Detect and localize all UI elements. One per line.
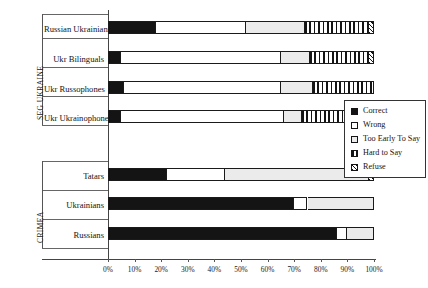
bar-segment: [308, 197, 375, 210]
bar-segment: [108, 168, 167, 181]
bar-row: [108, 51, 374, 64]
bar-segment: [369, 51, 374, 64]
bar-segment: [281, 51, 310, 64]
bar-segment: [369, 21, 374, 34]
bar-segment: [246, 21, 305, 34]
x-tick: [294, 259, 295, 262]
legend-item: Too Early To Say: [345, 132, 425, 146]
category-label: Ukr Bilinguals: [44, 55, 104, 64]
category-label: Ukrainians: [44, 201, 104, 210]
group-separator: [42, 248, 108, 249]
legend-swatch-icon: [351, 122, 358, 129]
x-tick: [135, 259, 136, 262]
legend-label: Wrong: [363, 121, 385, 129]
bar-segment: [305, 21, 369, 34]
bar-segment: [156, 21, 246, 34]
bar-segment: [337, 227, 348, 240]
legend-swatch-icon: [351, 108, 358, 115]
x-tick: [161, 259, 162, 262]
bar-segment: [313, 81, 374, 94]
stacked-bar-chart: SEG UKRAINECRIMEARussian UkrainiansUkr B…: [0, 0, 428, 288]
bar-row: [108, 110, 374, 123]
x-tick-label: 20%: [147, 265, 175, 274]
group-separator: [42, 161, 108, 162]
legend-item: Correct: [345, 104, 425, 118]
chart-legend: CorrectWrongToo Early To SayHard to SayR…: [344, 100, 426, 178]
legend-item: Refuse: [345, 160, 425, 174]
bar-row: [108, 21, 374, 34]
bar-row: [108, 168, 374, 181]
legend-label: Too Early To Say: [363, 135, 420, 143]
group-separator: [42, 67, 108, 68]
group-separator: [42, 14, 108, 15]
legend-label: Correct: [363, 107, 388, 115]
category-label: Russian Ukrainians: [44, 25, 104, 34]
bar-row: [108, 197, 374, 210]
x-tick: [347, 259, 348, 262]
bar-segment: [167, 168, 226, 181]
legend-item: Hard to Say: [345, 146, 425, 160]
legend-swatch-icon: [351, 150, 358, 157]
x-tick: [268, 259, 269, 262]
bar-row: [108, 227, 374, 240]
bar-segment: [121, 51, 281, 64]
category-label: Ukr Russophones: [44, 85, 104, 94]
x-tick-label: 30%: [174, 265, 202, 274]
x-tick-label: 40%: [200, 265, 228, 274]
bar-segment: [294, 197, 307, 210]
x-tick-label: 80%: [307, 265, 335, 274]
x-tick: [214, 259, 215, 262]
x-tick: [321, 259, 322, 262]
bar-segment: [347, 227, 374, 240]
bar-row: [108, 81, 374, 94]
x-tick-label: 50%: [227, 265, 255, 274]
x-tick-label: 100%: [360, 265, 388, 274]
bar-segment: [284, 110, 303, 123]
bar-segment: [108, 51, 121, 64]
group-separator: [42, 125, 108, 126]
bar-segment: [121, 110, 283, 123]
bar-segment: [281, 81, 313, 94]
x-tick-label: 60%: [254, 265, 282, 274]
legend-item: Wrong: [345, 118, 425, 132]
category-label: Tatars: [44, 172, 104, 181]
group-separator: [42, 38, 108, 39]
group-separator: [42, 96, 108, 97]
category-label: Ukr Ukrainophones: [44, 114, 104, 123]
x-tick: [108, 259, 109, 262]
bar-segment: [124, 81, 281, 94]
x-tick-label: 90%: [333, 265, 361, 274]
bar-segment: [108, 227, 337, 240]
group-separator: [42, 219, 108, 220]
y-axis-line: [108, 10, 109, 260]
x-axis-line: [42, 259, 376, 260]
legend-label: Hard to Say: [363, 149, 402, 157]
bar-segment: [108, 110, 121, 123]
legend-label: Refuse: [363, 163, 386, 171]
legend-swatch-icon: [351, 136, 358, 143]
x-tick: [241, 259, 242, 262]
x-tick: [188, 259, 189, 262]
group-separator: [42, 190, 108, 191]
x-tick-label: 70%: [280, 265, 308, 274]
x-tick-label: 10%: [121, 265, 149, 274]
bar-segment: [108, 21, 156, 34]
bar-segment: [108, 197, 294, 210]
bar-segment: [108, 81, 124, 94]
bar-segment: [310, 51, 369, 64]
legend-swatch-icon: [351, 164, 358, 171]
x-tick-label: 0%: [94, 265, 122, 274]
x-tick: [374, 259, 375, 262]
category-label: Russians: [44, 231, 104, 240]
